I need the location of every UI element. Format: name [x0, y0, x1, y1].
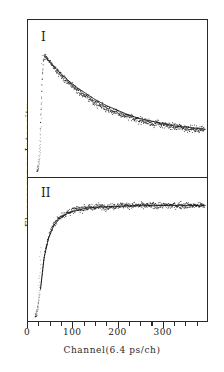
panel-2-plot [28, 177, 207, 323]
panel-2: II [28, 177, 207, 323]
x-tick-label: 300 [154, 327, 172, 337]
data-points [36, 54, 204, 172]
x-tick-minor [38, 322, 39, 326]
x-tick-minor [61, 322, 62, 326]
x-tick-label: 0 [24, 327, 30, 337]
panel-1: I [28, 20, 207, 177]
x-tick-minor [140, 322, 141, 326]
fit-curve [44, 56, 205, 130]
x-tick-minor [129, 322, 130, 326]
x-axis-title: Channel(6.4 ps/ch) [0, 345, 224, 355]
x-tick-label: 100 [63, 327, 81, 337]
x-tick-minor [174, 322, 175, 326]
x-tick-label: 200 [108, 327, 126, 337]
x-tick-minor [197, 322, 198, 326]
panel-1-plot [28, 20, 207, 177]
plot-frame: I II [27, 19, 208, 322]
x-tick-minor [106, 322, 107, 326]
x-axis-tick-labels: 0100200300 [0, 327, 224, 340]
x-tick-minor [50, 322, 51, 326]
figure-container: Fluorescence Intensity I II 0100200300 C… [0, 0, 224, 372]
x-tick-minor [185, 322, 186, 326]
fit-curve [41, 205, 206, 289]
x-tick-minor [95, 322, 96, 326]
x-tick-minor [151, 322, 152, 326]
x-tick-minor [84, 322, 85, 326]
